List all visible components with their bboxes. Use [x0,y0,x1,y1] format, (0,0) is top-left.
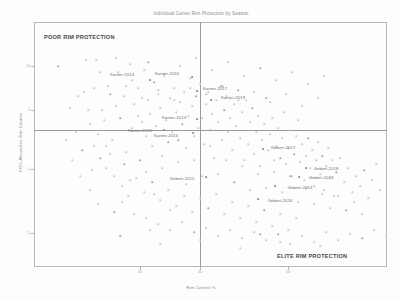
scatter-point [173,87,175,89]
scatter-point [181,221,183,223]
y-axis-tick-label: -5 [22,231,30,235]
scatter-point [251,107,253,109]
point-label: Kanter-2017 [203,86,227,91]
scatter-point [339,157,341,159]
scatter-point [133,103,135,105]
highlighted-scatter-point [196,118,198,120]
scatter-point [201,117,203,119]
scatter-point [89,189,91,191]
y-axis-tick [31,66,34,67]
scatter-point [189,87,191,89]
scatter-point [289,175,291,177]
scatter-point [161,167,163,169]
scatter-point [137,115,139,117]
scatter-point [113,175,115,177]
scatter-point [233,103,235,105]
scatter-point [173,99,175,101]
scatter-point [259,67,261,69]
scatter-point [297,201,299,203]
scatter-point [323,189,325,191]
scatter-point [243,75,245,77]
scatter-point [115,57,117,59]
scatter-point [347,167,349,169]
scatter-point [317,97,319,99]
scatter-point [265,187,267,189]
scatter-point [185,147,187,149]
scatter-point [107,85,109,87]
scatter-point [91,169,93,171]
scatter-point [145,171,147,173]
x-axis-label: Rim Contest % [0,285,402,290]
scatter-point [157,93,159,95]
scatter-point [315,159,317,161]
scatter-point [185,183,187,185]
scatter-point [227,61,229,63]
scatter-point [89,123,91,125]
scatter-point [197,127,199,129]
scatter-point [279,241,281,243]
scatter-point [323,75,325,77]
scatter-point [271,225,273,227]
scatter-point [231,201,233,203]
scatter-point [203,143,205,145]
scatter-point [359,185,361,187]
chart-canvas: Individual Center Rim Protection by Seas… [0,0,402,301]
scatter-point [321,155,323,157]
scatter-point [169,229,171,231]
scatter-point [269,101,271,103]
highlighted-scatter-point [149,79,151,81]
highlighted-scatter-point [191,76,193,78]
scatter-point [385,235,387,237]
scatter-point [273,159,275,161]
x-axis-tick-label: 50 [286,270,290,274]
y-axis-tick-label: 10 [22,64,30,68]
scatter-point [115,105,117,107]
scatter-point [93,87,95,89]
scatter-point [141,121,143,123]
scatter-point [265,239,267,241]
scatter-point [145,217,147,219]
scatter-point [209,145,211,147]
point-label: Kanter-2019 [221,95,245,100]
scatter-point [307,137,309,139]
scatter-point [125,151,127,153]
scatter-point [169,209,171,211]
scatter-point [331,159,333,161]
y-axis-tick [31,110,34,111]
scatter-point [159,199,161,201]
scatter-point [97,133,99,135]
point-label: Gobert-2014 [288,185,313,190]
scatter-point [343,181,345,183]
scatter-point [257,173,259,175]
scatter-point [215,193,217,195]
scatter-point [193,135,195,137]
scatter-point [363,169,365,171]
highlighted-scatter-point [210,99,212,101]
scatter-point [285,163,287,165]
scatter-point [99,71,101,73]
scatter-point [101,109,103,111]
scatter-point [177,139,179,141]
scatter-point [199,239,201,241]
scatter-point [241,165,243,167]
scatter-point [291,71,293,73]
point-label: Kanter-2016 [154,133,178,138]
scatter-point [311,149,313,151]
scatter-point [143,69,145,71]
scatter-point [153,81,155,83]
scatter-point [289,243,291,245]
scatter-point [93,145,95,147]
scatter-point [301,235,303,237]
scatter-point [181,123,183,125]
scatter-point [371,179,373,181]
scatter-point [263,123,265,125]
scatter-point [139,159,141,161]
scatter-point [235,125,237,127]
scatter-point [153,193,155,195]
scatter-point [199,83,201,85]
scatter-point [151,181,153,183]
scatter-point [149,229,151,231]
scatter-point [337,239,339,241]
vertical-reference-line [200,22,201,267]
scatter-point [147,61,149,63]
